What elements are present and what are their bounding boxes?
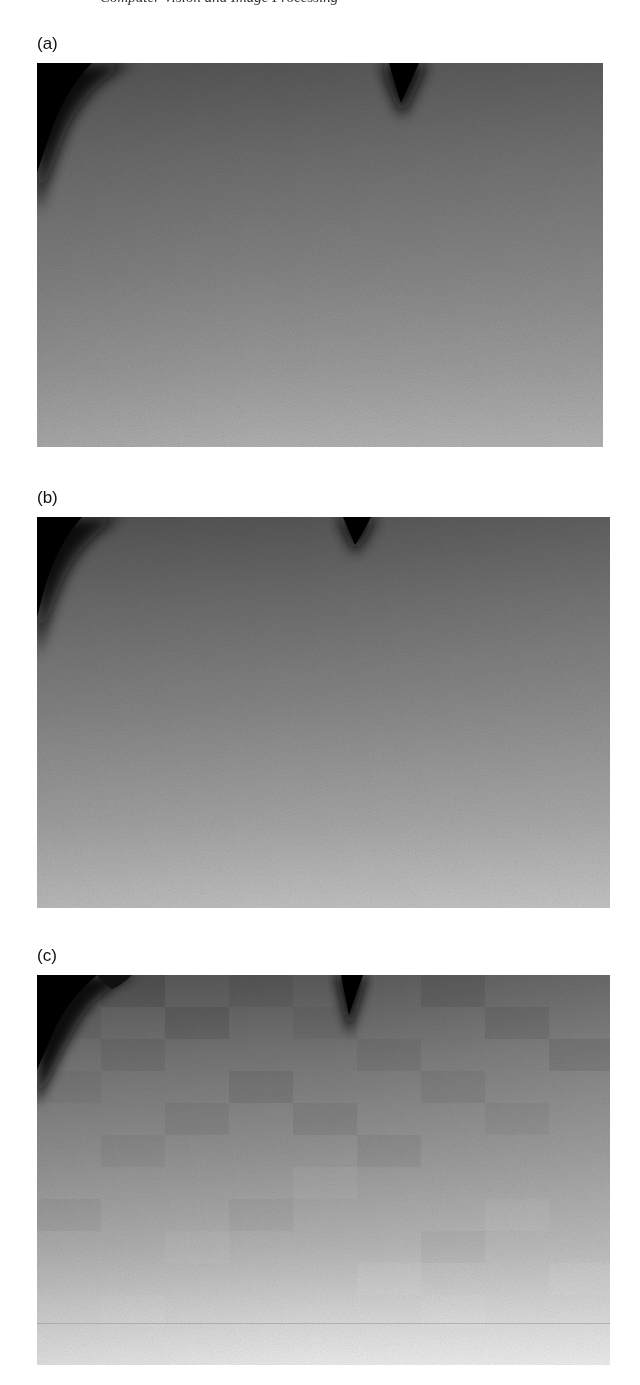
- image-panel-a: [37, 63, 603, 447]
- image-panel-b: [37, 517, 610, 908]
- running-head: Computer Vision and Image Processing: [100, 0, 338, 6]
- noise-texture: [37, 975, 610, 1365]
- scan-line-artifact: [37, 1323, 610, 1324]
- noise-texture: [37, 63, 603, 447]
- panel-label-b: (b): [37, 488, 58, 508]
- image-panel-c: [37, 975, 610, 1365]
- noise-texture: [37, 517, 610, 908]
- panel-label-a: (a): [37, 34, 58, 54]
- panel-label-c: (c): [37, 946, 57, 966]
